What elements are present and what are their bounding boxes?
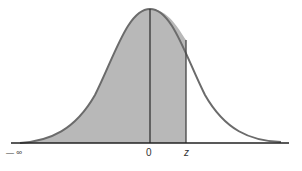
neg-infinity-label: — ∞ [6, 148, 22, 157]
normal-curve-diagram [0, 0, 302, 171]
zero-label: 0 [146, 147, 152, 158]
z-label: z [184, 147, 189, 158]
